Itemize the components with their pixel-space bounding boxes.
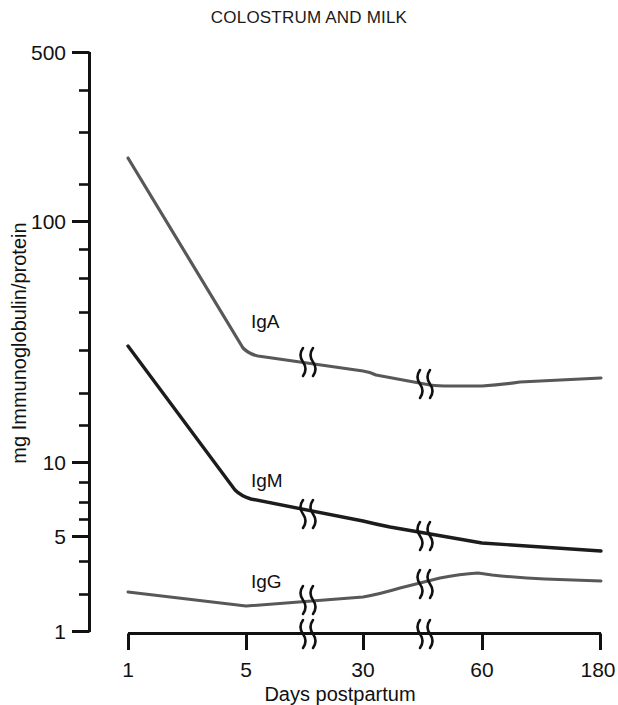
chart-figure: COLOSTRUM AND MILK <box>0 0 618 705</box>
series-line-iga <box>128 158 601 386</box>
y-tick-label-100: 100 <box>31 210 66 233</box>
y-axis-title: mg Immunoglobulin/protein <box>8 222 30 463</box>
series-label-igg: IgG <box>251 571 282 592</box>
x-tick-label-1: 1 <box>122 658 134 681</box>
break-mark-igm-2 <box>418 522 433 550</box>
series-line-igg <box>128 573 601 606</box>
x-axis: 1 5 30 60 180 Days postpartum <box>122 634 615 705</box>
break-mark-igg-2 <box>418 570 433 598</box>
series-line-igm <box>128 346 601 551</box>
y-tick-label-1: 1 <box>54 620 66 643</box>
x-tick-label-60: 60 <box>470 658 493 681</box>
series-label-igm: IgM <box>251 470 283 491</box>
x-axis-title: Days postpartum <box>264 683 415 705</box>
break-mark-igm-1 <box>301 500 316 528</box>
y-tick-label-5: 5 <box>54 525 66 548</box>
series-label-iga: IgA <box>251 311 280 332</box>
y-tick-label-500: 500 <box>31 41 66 64</box>
x-tick-label-5: 5 <box>240 658 252 681</box>
x-tick-label-30: 30 <box>351 658 374 681</box>
chart-plot-area: 500 100 10 5 1 mg Immunoglobulin/protein… <box>0 0 618 705</box>
y-axis: 500 100 10 5 1 mg Immunoglobulin/protein <box>8 41 90 643</box>
x-tick-label-180: 180 <box>580 658 615 681</box>
y-tick-label-10: 10 <box>43 451 66 474</box>
